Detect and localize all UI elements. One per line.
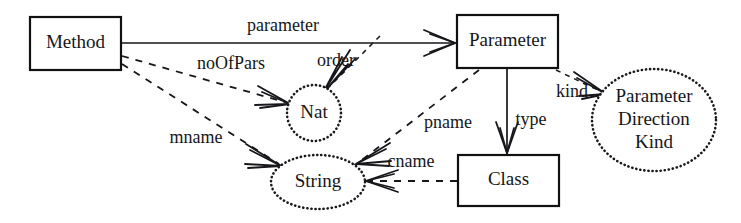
node-class-label: Class xyxy=(488,168,529,189)
diagram-svg: Method Parameter Class Nat String Parame… xyxy=(0,0,741,223)
node-method[interactable]: Method xyxy=(30,17,121,70)
edge-label-order: order xyxy=(317,50,355,70)
node-nat-label: Nat xyxy=(300,101,328,122)
edge-mname xyxy=(122,64,281,168)
node-nat[interactable]: Nat xyxy=(287,85,341,141)
edge-label-kind: kind xyxy=(556,81,588,101)
node-pdk-label-line2: Direction xyxy=(618,108,690,129)
edge-label-noOfPars: noOfPars xyxy=(197,53,265,73)
node-parameter[interactable]: Parameter xyxy=(457,15,558,68)
edge-label-type: type xyxy=(516,109,547,129)
node-pdk-label-line3: Kind xyxy=(635,131,674,152)
edge-label-parameter: parameter xyxy=(247,15,319,35)
edge-label-mname: mname xyxy=(170,127,223,147)
edge-label-cname: cname xyxy=(388,151,435,171)
node-parameter-direction-kind[interactable]: Parameter Direction Kind xyxy=(592,69,716,171)
node-string[interactable]: String xyxy=(271,155,365,209)
node-method-label: Method xyxy=(46,31,106,52)
diagram-canvas: Method Parameter Class Nat String Parame… xyxy=(0,0,741,223)
node-string-label: String xyxy=(295,170,342,191)
edge-label-pname: pname xyxy=(424,112,472,132)
edge-cname xyxy=(366,170,457,192)
node-parameter-label: Parameter xyxy=(469,29,547,50)
node-class[interactable]: Class xyxy=(458,155,559,206)
node-pdk-label-line1: Parameter xyxy=(615,85,693,106)
